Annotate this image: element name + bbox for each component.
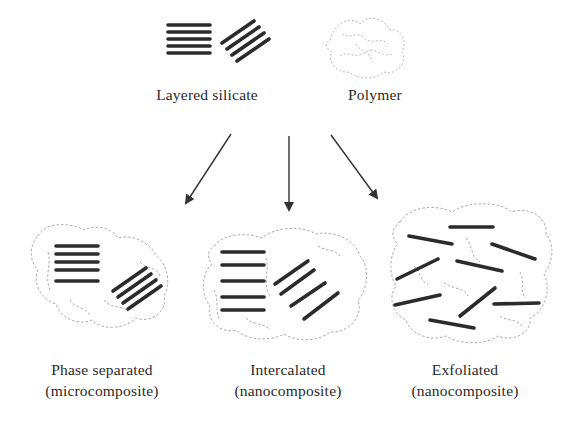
layered-silicate-tilted-stack-icon xyxy=(222,21,269,61)
layered-silicate-label: Layered silicate xyxy=(140,84,274,105)
polymer-label: Polymer xyxy=(330,84,420,105)
arrow-to-phase-separated-icon xyxy=(186,134,231,203)
exfoliated-title: Exfoliated xyxy=(385,359,545,380)
phase-separated-title: Phase separated xyxy=(22,359,182,380)
layered-silicate-text: Layered silicate xyxy=(140,84,274,105)
exfoliated-subtitle: (nanocomposite) xyxy=(385,380,545,401)
arrows xyxy=(186,134,377,210)
intercalated-subtitle: (nanocomposite) xyxy=(208,380,368,401)
phase-separated-stack-icon xyxy=(56,246,98,281)
intercalated-stack-icon xyxy=(222,252,264,310)
layered-silicate-stack-icon xyxy=(168,25,210,53)
polymer-icon xyxy=(327,18,405,78)
arrow-to-exfoliated-icon xyxy=(331,135,377,198)
intercalated-title: Intercalated xyxy=(208,359,368,380)
intercalated-polymer-icon xyxy=(203,228,366,339)
polymer-text: Polymer xyxy=(330,84,420,105)
exfoliated-polymer-icon xyxy=(391,204,552,343)
exfoliated-label: Exfoliated (nanocomposite) xyxy=(385,359,545,401)
phase-separated-tilted-stack-icon xyxy=(113,268,161,309)
phase-separated-label: Phase separated (microcomposite) xyxy=(22,359,182,401)
intercalated-tilted-stack-icon xyxy=(275,261,338,319)
phase-separated-subtitle: (microcomposite) xyxy=(22,380,182,401)
intercalated-label: Intercalated (nanocomposite) xyxy=(208,359,368,401)
exfoliated-sheets-icon xyxy=(395,227,539,328)
